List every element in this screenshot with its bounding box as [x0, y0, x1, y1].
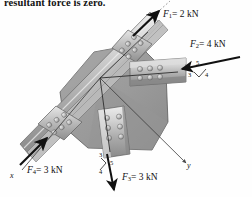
f2-unit: kN — [214, 39, 226, 49]
figure-container: resultant force is zero. F1= 2 kN F2= 4 … — [0, 0, 252, 197]
f2-equals: = — [199, 39, 204, 49]
force-label-f2: F2= 4 kN — [190, 40, 226, 50]
f1-unit: kN — [187, 9, 199, 19]
f1-magnitude: 2 — [180, 9, 185, 19]
f2-triangle-run: 4 — [205, 72, 208, 79]
f3-equals: = — [131, 172, 136, 182]
f4-magnitude: 3 — [44, 165, 49, 175]
caption-text: resultant force is zero. — [4, 0, 106, 9]
f2-magnitude: 4 — [207, 39, 212, 49]
f3-triangle-rise: 3 — [99, 152, 102, 159]
f4-equals: = — [36, 165, 41, 175]
member-f3 — [98, 106, 130, 158]
force-label-f4: F4= 3 kN — [27, 166, 63, 176]
y-axis-label: y — [187, 162, 191, 170]
force-label-f3: F3= 3 kN — [122, 173, 158, 183]
f2-triangle-rise: 3 — [188, 72, 191, 79]
f3-magnitude: 3 — [139, 172, 144, 182]
f4-unit: kN — [51, 165, 63, 175]
f2-triangle-hyp: 5 — [196, 60, 199, 67]
f3-triangle-run: 4 — [99, 169, 102, 176]
f1-equals: = — [172, 9, 177, 19]
force-label-f1: F1= 2 kN — [163, 10, 199, 20]
force-arrow-f2 — [182, 57, 240, 69]
f3-unit: kN — [146, 172, 158, 182]
f3-triangle-hyp: 5 — [110, 160, 113, 167]
x-axis-label: x — [10, 172, 14, 180]
